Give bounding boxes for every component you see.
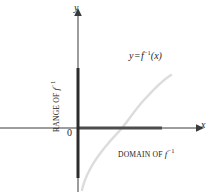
curve-equation-argument: (x) [151,50,162,61]
domain-label-text: DOMAIN OF [118,150,165,159]
y-axis-label: y [74,3,78,13]
domain-label: DOMAIN OF f−1 [118,148,175,159]
domain-label-exponent: −1 [167,147,174,154]
range-label-symbol: f [51,88,61,91]
curve-equation-exponent: −1 [144,49,151,56]
inverse-function-figure: y x 0 y=f−1(x) DOMAIN OF f−1 RANGE OF f−… [0,0,211,192]
inverse-function-curve [82,75,171,190]
range-label-text: RANGE OF [52,91,61,132]
origin-label: 0 [67,128,72,138]
curve-equation-label: y=f−1(x) [129,50,162,61]
range-label: RANGE OF f−1 [50,81,61,133]
graph-canvas [0,0,211,192]
x-axis-label: x [201,120,205,130]
curve-equation-equals: = [134,50,140,61]
range-label-exponent: −1 [49,81,56,88]
curve-equation-lhs: y [129,50,133,61]
